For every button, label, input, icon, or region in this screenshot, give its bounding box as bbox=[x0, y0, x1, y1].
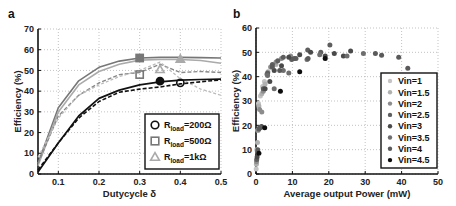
data-point bbox=[348, 49, 353, 54]
grid bbox=[256, 28, 438, 174]
y-tick-label: 50 bbox=[24, 66, 34, 76]
data-point bbox=[256, 101, 261, 106]
data-point bbox=[294, 56, 299, 61]
data-point bbox=[405, 66, 410, 71]
legend-dot-icon bbox=[388, 135, 392, 139]
data-point bbox=[258, 125, 263, 130]
triangle-marker bbox=[156, 65, 164, 72]
data-point bbox=[270, 64, 275, 69]
data-point bbox=[256, 151, 261, 156]
y-axis-label: Efficiency (%) bbox=[12, 70, 23, 132]
y-tick-label: 0 bbox=[247, 169, 252, 179]
data-point bbox=[265, 73, 270, 78]
y-tick-label: 30 bbox=[24, 107, 34, 117]
y-tick-label: 30 bbox=[242, 96, 252, 106]
y-tick-label: 20 bbox=[242, 121, 252, 131]
data-point bbox=[262, 125, 267, 130]
data-point bbox=[260, 84, 265, 89]
data-point bbox=[281, 68, 286, 73]
data-point bbox=[267, 79, 272, 84]
data-point bbox=[265, 71, 270, 76]
data-point bbox=[256, 103, 261, 108]
data-point bbox=[318, 50, 323, 55]
y-tick-label: 40 bbox=[24, 86, 34, 96]
y-tick-label: 0 bbox=[29, 169, 34, 179]
data-point bbox=[308, 50, 313, 55]
x-tick-label: 0.4 bbox=[174, 177, 187, 187]
data-point bbox=[277, 68, 282, 73]
y-tick-label: 10 bbox=[242, 145, 252, 155]
data-point bbox=[256, 128, 261, 133]
data-point bbox=[255, 128, 260, 133]
data-point bbox=[274, 60, 279, 65]
data-point bbox=[270, 62, 275, 67]
chart-panel-a: 0.10.20.30.40.5010203040506070Dutycycle … bbox=[0, 0, 230, 206]
legend-entry: Vin=1.5 bbox=[398, 88, 430, 98]
data-point bbox=[332, 51, 337, 56]
data-point bbox=[254, 167, 259, 172]
y-tick-label: 40 bbox=[242, 72, 252, 82]
data-point bbox=[279, 56, 284, 61]
data-point bbox=[257, 107, 262, 112]
data-point bbox=[264, 72, 269, 77]
scatter-points bbox=[254, 43, 411, 172]
data-point bbox=[297, 69, 302, 74]
legend: Rload=200ΩRload=500ΩRload=1kΩ bbox=[145, 114, 219, 169]
data-point bbox=[274, 62, 279, 67]
data-point bbox=[305, 47, 310, 52]
data-point bbox=[275, 58, 280, 63]
data-point bbox=[258, 94, 263, 99]
data-point bbox=[305, 57, 310, 62]
legend-dot-icon bbox=[388, 79, 392, 83]
data-point bbox=[259, 110, 264, 115]
x-tick-label: 0.5 bbox=[215, 177, 228, 187]
panel-label: b bbox=[233, 7, 240, 21]
data-point bbox=[261, 89, 266, 94]
data-point bbox=[327, 43, 332, 48]
figure: 0.10.20.30.40.5010203040506070Dutycycle … bbox=[0, 0, 456, 206]
legend-entry: Vin=4 bbox=[398, 144, 422, 154]
data-point bbox=[255, 155, 260, 160]
data-point bbox=[255, 140, 260, 145]
x-tick-label: 50 bbox=[433, 177, 443, 187]
legend-entry: Vin=2 bbox=[398, 99, 422, 109]
data-point bbox=[259, 124, 264, 129]
triangle-marker bbox=[176, 55, 184, 62]
circle-marker bbox=[156, 78, 163, 85]
x-axis-label: Average output Power (mW) bbox=[284, 188, 411, 199]
data-point bbox=[268, 64, 273, 69]
y-axis-label: Efficiency (%) bbox=[230, 70, 241, 132]
x-tick-label: 0.3 bbox=[133, 177, 146, 187]
data-point bbox=[266, 69, 271, 74]
y-tick-label: 60 bbox=[242, 23, 252, 33]
data-point bbox=[272, 68, 277, 73]
data-point bbox=[286, 55, 291, 60]
x-tick-label: 30 bbox=[360, 177, 370, 187]
data-point bbox=[278, 89, 283, 94]
legend-entry: Vin=2.5 bbox=[398, 110, 430, 120]
legend-box bbox=[381, 73, 437, 168]
data-point bbox=[361, 51, 366, 56]
legend-dot-icon bbox=[388, 113, 392, 117]
legend-dot-icon bbox=[388, 90, 392, 94]
data-point bbox=[286, 71, 291, 76]
legend-entry: Vin=3.5 bbox=[398, 133, 430, 143]
data-point bbox=[262, 79, 267, 84]
data-point bbox=[345, 54, 350, 59]
data-point bbox=[255, 147, 260, 152]
square-marker bbox=[136, 54, 143, 61]
data-point bbox=[257, 125, 262, 130]
y-tick-label: 70 bbox=[24, 24, 34, 34]
data-point bbox=[396, 55, 401, 60]
legend-dot-icon bbox=[388, 101, 392, 105]
data-point bbox=[272, 86, 277, 91]
x-tick-label: 0.1 bbox=[52, 177, 65, 187]
x-tick-label: 10 bbox=[287, 177, 297, 187]
data-point bbox=[254, 159, 259, 164]
legend-entry: Vin=4.5 bbox=[398, 155, 430, 165]
legend-dot-icon bbox=[388, 124, 392, 128]
legend-entry: Vin=3 bbox=[398, 121, 422, 131]
data-point bbox=[255, 150, 260, 155]
y-tick-label: 20 bbox=[24, 128, 34, 138]
data-point bbox=[289, 57, 294, 62]
